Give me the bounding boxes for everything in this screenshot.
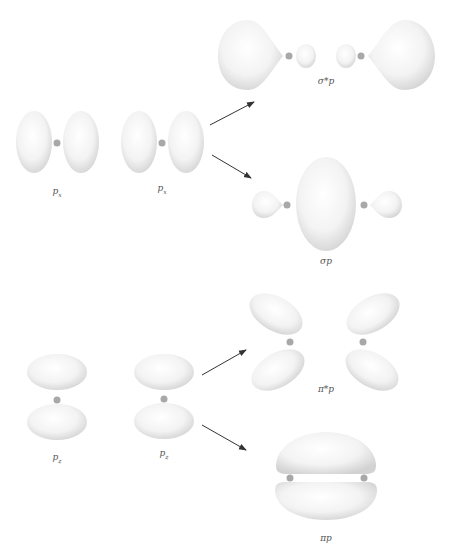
nucleus-dot: [54, 140, 61, 147]
pz-orbital-right: [134, 354, 194, 439]
lobe: [63, 111, 99, 173]
label-sigma: σp: [320, 256, 332, 266]
lobe: [339, 285, 406, 343]
nucleus-dot: [161, 396, 168, 403]
lobe: [368, 20, 435, 90]
nucleus-dot: [159, 140, 166, 147]
lobe: [134, 403, 194, 439]
lobe: [252, 191, 283, 218]
label-pi: πp: [320, 533, 332, 543]
label-px-right: px: [157, 183, 166, 195]
lobe: [134, 354, 194, 390]
lobe: [336, 44, 356, 68]
lobe: [276, 432, 376, 474]
pi-star-orbital: [242, 285, 406, 399]
label-pi-star: π*p: [318, 384, 334, 394]
lobe: [244, 341, 311, 399]
pz-orbital-left: [27, 354, 87, 440]
arrow-to-pi: [202, 425, 246, 450]
lobe: [296, 44, 316, 68]
label-pz-right: pz: [160, 448, 169, 460]
nucleus-dot: [287, 475, 294, 482]
pi-orbital: [275, 432, 377, 520]
nucleus-dot: [360, 339, 367, 346]
nucleus-dot: [361, 475, 368, 482]
label-pz-left: pz: [53, 452, 62, 464]
lobe: [275, 482, 377, 520]
nucleus-dot: [358, 53, 365, 60]
arrow-to-sigma: [212, 155, 251, 178]
lobe: [168, 111, 204, 173]
label-sigma-star: σ*p: [318, 76, 334, 86]
lobe: [296, 157, 356, 251]
nucleus-dot: [287, 339, 294, 346]
nucleus-dot: [54, 397, 61, 404]
label-px-left: px: [52, 186, 61, 198]
arrow-to-sigma-star: [210, 102, 254, 125]
lobe: [338, 341, 405, 399]
orbital-diagram: [0, 0, 459, 554]
lobe: [16, 111, 52, 173]
lobe: [218, 20, 283, 90]
sigma-orbital: [252, 157, 402, 251]
arrow-to-pi-star: [202, 350, 246, 375]
lobe: [27, 354, 87, 390]
lobe: [370, 191, 402, 218]
nucleus-dot: [284, 202, 291, 209]
nucleus-dot: [361, 202, 368, 209]
lobe: [121, 111, 157, 173]
px-orbital-right: [121, 111, 204, 173]
px-orbital-left: [16, 111, 99, 173]
lobe: [27, 404, 87, 440]
lobe: [242, 285, 309, 343]
nucleus-dot: [286, 53, 293, 60]
